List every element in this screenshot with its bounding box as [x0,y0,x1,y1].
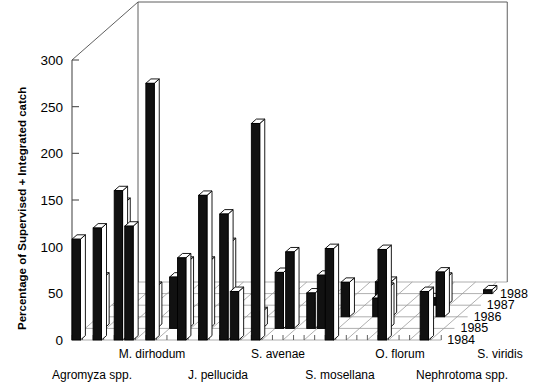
bar-3d [436,268,449,317]
category-label: J. pellucida [188,368,248,382]
bar-3d [341,278,354,317]
y-axis-tick-label: 150 [40,193,63,208]
year-label-1988: 1988 [500,287,528,301]
bar-3d [286,247,299,328]
bar-3d [178,253,191,340]
category-label: Agromyza spp. [52,368,132,382]
bar-3d [325,244,338,340]
bar-3d [146,79,159,340]
bar-3d [199,191,212,340]
chart-figure: Percentage of Supervised + Integrated ca… [0,0,553,386]
bars-layer [72,79,497,340]
category-label: O. florum [375,347,424,361]
bar-3d [484,285,497,293]
bar-chart-canvas: 050100150200250300 19841985198619871988 … [0,0,553,386]
category-label: S. avenae [251,347,305,361]
bar-3d [125,222,138,340]
category-label: Nephrotoma spp. [416,368,508,382]
bar-3d [230,287,243,340]
bar-3d [72,235,85,340]
y-axis-tick-label: 100 [40,240,63,255]
y-axis-tick-label: 250 [40,100,63,115]
y-axis-tick-label: 300 [40,53,63,68]
bar-3d [420,287,433,340]
category-label: M. dirhodum [119,347,186,361]
bar-3d [251,119,264,340]
y-axis-tick-label: 50 [48,286,63,301]
bar-3d [378,245,391,340]
category-axis-labels: M. dirhodumS. avenaeO. florumS. viridisA… [52,347,523,382]
y-axis-tick-label: 200 [40,146,63,161]
category-label: S. mosellana [305,368,375,382]
bar-3d [93,224,106,340]
y-axis-tick-label: 0 [55,333,63,348]
category-label: S. viridis [477,347,522,361]
